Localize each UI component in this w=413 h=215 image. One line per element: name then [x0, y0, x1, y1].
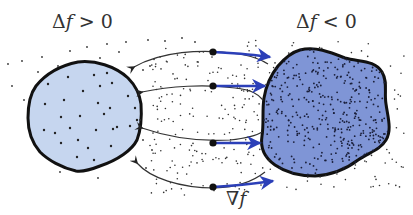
- right-region-shape: [262, 49, 390, 176]
- diagram-svg: [0, 0, 413, 215]
- label-var: f: [66, 10, 73, 32]
- label-var: f: [239, 187, 246, 209]
- sample-point-2: [209, 82, 216, 89]
- flow-curve-3: [142, 128, 262, 140]
- flow-curve-2: [142, 86, 263, 100]
- delta-symbol: Δ: [296, 10, 310, 32]
- gradient-arrow-1: [213, 52, 270, 57]
- right-region: [261, 48, 389, 176]
- label-laplacian-positive: Δf > 0: [52, 12, 113, 31]
- sample-point-3: [209, 139, 216, 146]
- label-var: f: [310, 10, 317, 32]
- sample-point-1: [209, 48, 216, 55]
- label-laplacian-negative: Δf < 0: [296, 12, 357, 31]
- delta-symbol: Δ: [52, 10, 66, 32]
- label-gradient: ∇f: [226, 189, 246, 208]
- left-region: [28, 62, 141, 172]
- nabla-symbol: ∇: [226, 187, 239, 209]
- left-region-shape: [28, 62, 141, 172]
- diagram-canvas: Δf > 0 Δf < 0 ∇f: [0, 0, 413, 215]
- sample-points: [209, 48, 216, 190]
- sample-point-4: [209, 183, 216, 190]
- flow-curves: [134, 51, 268, 188]
- label-relation: < 0: [317, 10, 357, 32]
- label-relation: > 0: [73, 10, 113, 32]
